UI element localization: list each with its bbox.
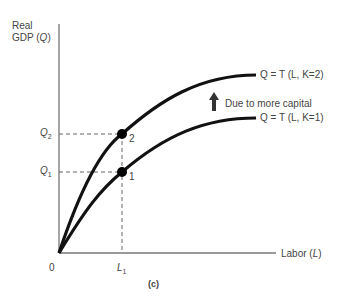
y-label-line1: Real <box>12 20 51 32</box>
x-label-post: ) <box>318 248 321 259</box>
x-axis-label: Labor (L) <box>281 248 322 260</box>
q2-main: Q <box>40 127 48 138</box>
q1-main: Q <box>40 165 48 176</box>
x-label-pre: Labor ( <box>281 248 313 259</box>
l1-sub: 1 <box>123 268 127 275</box>
origin-label: 0 <box>49 262 55 274</box>
point-1-label: 1 <box>129 171 135 183</box>
point-2 <box>117 129 127 139</box>
y-axis-label: Real GDP (Q) <box>12 20 51 44</box>
y-label-pre: GDP ( <box>12 32 40 43</box>
tick-q2: Q2 <box>40 127 52 143</box>
y-label-line2: GDP (Q) <box>12 32 51 44</box>
up-arrow-icon <box>209 92 219 111</box>
figure-caption: (c) <box>148 278 159 290</box>
curve-k2-label: Q = T (L, K=2) <box>260 69 324 81</box>
curve-k1 <box>59 118 256 253</box>
curve-k1-label: Q = T (L, K=1) <box>260 112 324 124</box>
q1-sub: 1 <box>48 171 52 178</box>
q2-sub: 2 <box>48 133 52 140</box>
shift-annotation: Due to more capital <box>225 98 312 110</box>
point-1 <box>117 167 127 177</box>
point-2-label: 2 <box>129 133 135 145</box>
tick-q1: Q1 <box>40 165 52 181</box>
tick-l1: L1 <box>117 262 126 278</box>
y-label-post: ) <box>47 32 50 43</box>
